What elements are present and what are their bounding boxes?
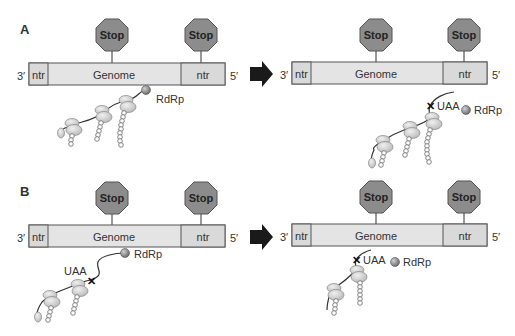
end-label-5prime: 5′ bbox=[492, 69, 500, 81]
codon-label: UAA bbox=[363, 254, 386, 266]
peptide-chain bbox=[95, 121, 104, 142]
panel-a-after-genome: Stop Stop ntr Genome ntr 3′ 5′ bbox=[280, 19, 500, 84]
segment-label: ntr bbox=[295, 68, 308, 80]
segment-label: ntr bbox=[295, 230, 308, 242]
panel-a-before-translation: RdRp bbox=[58, 86, 185, 148]
segment-label: Genome bbox=[355, 230, 397, 242]
codon-label: UAA bbox=[437, 100, 460, 112]
stop-sign-label: Stop bbox=[189, 192, 214, 204]
rdrp-icon bbox=[142, 86, 151, 95]
segment-label: ntr bbox=[197, 231, 210, 243]
panel-b-before-genome: Stop Stop ntr Genome ntr 3′ 5′ bbox=[17, 182, 238, 247]
panel-a-after-translation: ✕ UAA RdRp bbox=[369, 92, 503, 168]
end-label-5prime: 5′ bbox=[230, 70, 238, 82]
panel-label-a: A bbox=[20, 22, 30, 37]
arrow-icon bbox=[250, 61, 273, 87]
peptide-chain bbox=[46, 306, 54, 323]
rdrp-label: RdRp bbox=[156, 93, 184, 105]
stop-sign-label: Stop bbox=[100, 29, 125, 41]
panel-a-before-genome: Stop Stop ntr Genome ntr 3′ 5′ bbox=[17, 19, 238, 85]
stop-codon-x-icon: ✕ bbox=[426, 100, 435, 112]
panel-b: B Stop Stop ntr Genome ntr 3′ 5′ RdRp ✕ … bbox=[17, 181, 500, 322]
rdrp-icon bbox=[121, 249, 130, 258]
peptide-chain bbox=[379, 151, 387, 168]
stop-sign-label: Stop bbox=[100, 192, 125, 204]
segment-label: Genome bbox=[93, 69, 135, 81]
stop-sign-label: Stop bbox=[364, 191, 389, 203]
end-label-5prime: 5′ bbox=[492, 231, 500, 243]
stop-codon-x-icon: ✕ bbox=[87, 275, 96, 287]
peptide-chain bbox=[118, 111, 127, 148]
rdrp-icon bbox=[462, 106, 471, 115]
peptide-chain bbox=[403, 137, 412, 158]
arrow-icon bbox=[250, 224, 273, 250]
codon-label: UAA bbox=[64, 265, 87, 277]
stop-sign-label: Stop bbox=[189, 29, 214, 41]
rdrp-label: RdRp bbox=[134, 248, 162, 260]
segment-label: Genome bbox=[355, 68, 397, 80]
rdrp-icon bbox=[391, 258, 400, 267]
panel-b-after-genome: Stop Stop ntr Genome ntr 3′ 5′ bbox=[280, 181, 500, 246]
panel-b-before-translation: RdRp ✕ UAA bbox=[35, 248, 163, 322]
segment-label: ntr bbox=[197, 69, 210, 81]
end-label-3prime: 3′ bbox=[280, 69, 288, 81]
segment-label: ntr bbox=[32, 69, 45, 81]
peptide-chain bbox=[425, 128, 433, 165]
rdrp-label: RdRp bbox=[474, 104, 502, 116]
rdrp-label: RdRp bbox=[403, 256, 431, 268]
peptide-chain bbox=[332, 299, 339, 316]
panel-b-after-translation: ✕ UAA RdRp bbox=[327, 250, 431, 315]
stop-codon-x-icon: ✕ bbox=[352, 254, 361, 266]
diagram-canvas: A Stop Stop ntr Genome ntr 3′ 5′ RdRp bbox=[0, 0, 515, 336]
segment-label: ntr bbox=[459, 230, 472, 242]
peptide-chain bbox=[71, 295, 80, 316]
stop-sign-label: Stop bbox=[452, 191, 477, 203]
stop-sign-label: Stop bbox=[452, 29, 477, 41]
peptide-chain bbox=[358, 281, 363, 306]
panel-a: A Stop Stop ntr Genome ntr 3′ 5′ RdRp bbox=[17, 19, 502, 168]
peptide-chain bbox=[69, 134, 75, 147]
segment-label: Genome bbox=[93, 231, 135, 243]
panel-label-b: B bbox=[20, 184, 29, 199]
end-label-3prime: 3′ bbox=[17, 232, 25, 244]
segment-label: ntr bbox=[459, 68, 472, 80]
stop-sign-label: Stop bbox=[364, 29, 389, 41]
end-label-3prime: 3′ bbox=[17, 70, 25, 82]
end-label-5prime: 5′ bbox=[230, 232, 238, 244]
segment-label: ntr bbox=[32, 231, 45, 243]
end-label-3prime: 3′ bbox=[280, 231, 288, 243]
